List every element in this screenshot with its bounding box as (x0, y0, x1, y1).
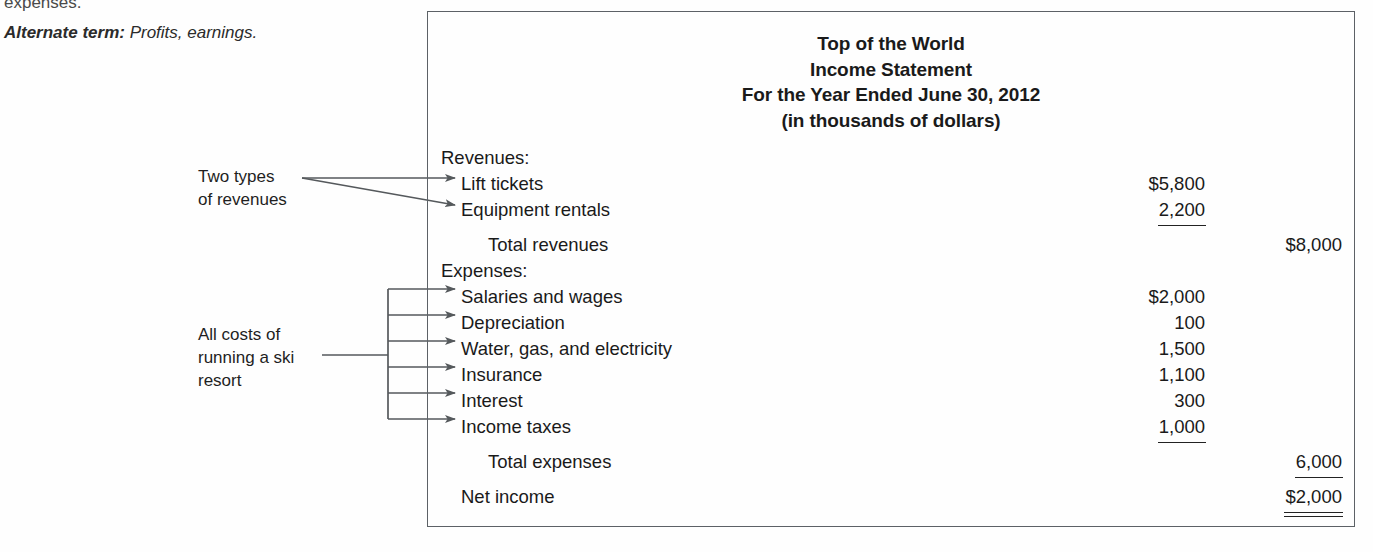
section-heading-label: Revenues: (428, 145, 529, 171)
statement-title: Income Statement (428, 57, 1354, 83)
amount-value: 1,000 (1158, 414, 1206, 443)
line-item-amount-col2 (1221, 284, 1343, 310)
net-income-label: Net income (428, 484, 555, 510)
total-amount-col1 (1086, 449, 1206, 475)
section-heading-label: Expenses: (428, 258, 527, 284)
net-income-amount-col2: $2,000 (1221, 484, 1343, 513)
callout-expenses-line2: running a ski (198, 346, 318, 369)
amount-value (1341, 215, 1343, 216)
page-root: expenses. Alternate term: Profits, earni… (0, 0, 1373, 552)
net-income-row: Net income $2,000 (428, 484, 1354, 510)
line-item-insurance: Insurance 1,100 (428, 362, 1354, 388)
amount-value (1341, 380, 1343, 381)
callout-revenues-line1: Two types (198, 165, 308, 188)
row-gap (428, 440, 1354, 449)
alternate-term-value: Profits, earnings. (130, 23, 258, 42)
line-item-salaries-and-wages: Salaries and wages $2,000 (428, 284, 1354, 310)
line-item-amount-col2 (1221, 171, 1343, 197)
line-item-amount-col1: 100 (1086, 310, 1206, 337)
total-amount-col2: $8,000 (1221, 232, 1343, 259)
callout-all-costs-of-running-a-ski-resort: All costs of running a ski resort (198, 323, 318, 392)
statement-period: For the Year Ended June 30, 2012 (428, 82, 1354, 108)
margin-note-alternate-term: Alternate term: Profits, earnings. (4, 20, 257, 45)
amount-value (1341, 406, 1343, 407)
statement-company-name: Top of the World (428, 31, 1354, 57)
amount-value (1204, 502, 1206, 503)
line-item-amount-col1: 1,500 (1086, 336, 1206, 363)
income-statement-box: Top of the World Income Statement For th… (427, 11, 1355, 527)
line-item-amount-col1: $5,800 (1086, 171, 1206, 198)
callout-two-types-of-revenues: Two types of revenues (198, 165, 308, 211)
alternate-term-label: Alternate term: (4, 23, 125, 42)
line-item-amount-col2 (1221, 197, 1343, 223)
line-item-amount-col2 (1221, 414, 1343, 440)
amount-value: 6,000 (1295, 449, 1343, 478)
line-item-label: Lift tickets (428, 171, 543, 197)
section-heading-revenues: Revenues: (428, 145, 1354, 171)
line-item-amount-col1: 300 (1086, 388, 1206, 415)
total-amount-col2: 6,000 (1221, 449, 1343, 478)
total-amount-col1 (1086, 232, 1206, 258)
amount-value (1341, 328, 1343, 329)
amount-value (1341, 432, 1343, 433)
amount-value: 300 (1173, 388, 1206, 415)
amount-value: $5,800 (1147, 171, 1206, 198)
line-item-lift-tickets: Lift tickets $5,800 (428, 171, 1354, 197)
line-item-label: Equipment rentals (428, 197, 610, 223)
line-item-amount-col1: $2,000 (1086, 284, 1206, 311)
line-item-label: Water, gas, and electricity (428, 336, 672, 362)
statement-header: Top of the World Income Statement For th… (428, 12, 1354, 133)
callout-expenses-line1: All costs of (198, 323, 318, 346)
margin-note-cut: expenses. (4, 0, 82, 15)
line-item-amount-col2 (1221, 336, 1343, 362)
amount-value: 100 (1173, 310, 1206, 337)
line-item-label: Interest (428, 388, 523, 414)
total-label: Total expenses (428, 449, 611, 475)
section-heading-expenses: Expenses: (428, 258, 1354, 284)
amount-value (1341, 302, 1343, 303)
line-item-amount-col2 (1221, 388, 1343, 414)
amount-value (1341, 189, 1343, 190)
line-item-water-gas-and-electricity: Water, gas, and electricity 1,500 (428, 336, 1354, 362)
statement-units: (in thousands of dollars) (428, 108, 1354, 134)
line-item-label: Income taxes (428, 414, 571, 440)
total-label: Total revenues (428, 232, 608, 258)
callout-revenues-line2: of revenues (198, 188, 308, 211)
line-item-equipment-rentals: Equipment rentals 2,200 (428, 197, 1354, 223)
amount-value: 1,500 (1158, 336, 1206, 363)
row-gap (428, 475, 1354, 484)
amount-value: 2,200 (1158, 197, 1206, 226)
line-item-label: Insurance (428, 362, 542, 388)
row-gap (428, 223, 1354, 232)
line-item-amount-col1: 2,200 (1086, 197, 1206, 226)
amount-value (1204, 250, 1206, 251)
line-item-amount-col1: 1,100 (1086, 362, 1206, 389)
amount-value: $8,000 (1284, 232, 1343, 259)
total-expenses-row: Total expenses 6,000 (428, 449, 1354, 475)
statement-body: Revenues: Lift tickets $5,800 Equipment … (428, 145, 1354, 510)
line-item-interest: Interest 300 (428, 388, 1354, 414)
line-item-amount-col1: 1,000 (1086, 414, 1206, 443)
amount-value (1204, 467, 1206, 468)
line-item-income-taxes: Income taxes 1,000 (428, 414, 1354, 440)
amount-value: 1,100 (1158, 362, 1206, 389)
net-income-amount-col1 (1086, 484, 1206, 510)
amount-value (1341, 354, 1343, 355)
line-item-amount-col2 (1221, 310, 1343, 336)
callout-expenses-line3: resort (198, 369, 318, 392)
line-item-label: Depreciation (428, 310, 565, 336)
amount-value: $2,000 (1284, 484, 1343, 513)
line-item-depreciation: Depreciation 100 (428, 310, 1354, 336)
total-revenues-row: Total revenues $8,000 (428, 232, 1354, 258)
amount-value: $2,000 (1147, 284, 1206, 311)
line-item-label: Salaries and wages (428, 284, 622, 310)
line-item-amount-col2 (1221, 362, 1343, 388)
